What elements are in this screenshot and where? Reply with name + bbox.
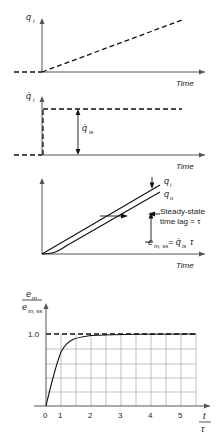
panel1-ylabel: q (26, 12, 31, 22)
panel2-xlabel: Time (176, 162, 194, 171)
panel4-x-arrow (204, 404, 210, 409)
panel3-gap-arrow-head (150, 183, 155, 190)
panel2-level-label: q̇ (82, 123, 87, 133)
panel3-label-qo-sub: o (170, 195, 174, 201)
panel3-err-label-sub: m, ss (154, 243, 168, 249)
panel3-label-qi: q (164, 176, 169, 186)
panel4-grid-vertical (61, 334, 196, 406)
panel1-ramp-line (42, 20, 182, 72)
panel4-y-arrow (44, 303, 49, 309)
panel4-ylabel-denominator: e (22, 302, 27, 312)
textbook-figure: q i Time q̇ i q̇ is Time (0, 0, 223, 439)
panel3-lag-arrow-head (121, 213, 128, 218)
panel3-err-eq-sub: is (182, 243, 186, 249)
panel2-level-arrow-up (76, 109, 81, 115)
panel2-y-arrow (40, 96, 45, 102)
panel4-ylabel-numerator: e (26, 289, 31, 299)
panel4-xtick-0: 0 (43, 411, 48, 420)
panel3-err-label: e (148, 237, 153, 247)
panel1-x-arrow (199, 70, 205, 75)
panel4-ytick-1: 1.0 (28, 330, 40, 339)
panel4-xlabel-numerator: t (203, 411, 206, 421)
figure-svg: q i Time q̇ i q̇ is Time (0, 0, 223, 439)
panel-response: q i q o Steady-state time lag = τ e m, s… (40, 176, 206, 270)
panel2-level-label-sub: is (89, 129, 93, 135)
panel4-xlabel-denominator: τ (201, 424, 205, 434)
panel3-err-eq-tail: τ (190, 237, 194, 247)
panel4-xtick-5: 5 (178, 411, 183, 420)
panel3-label-qi-sub: i (170, 182, 172, 188)
panel4-ylabel-denominator-sub: m, ss (28, 308, 42, 314)
panel2-x-arrow (199, 153, 205, 158)
panel2-ylabel-sub: i (33, 97, 35, 103)
panel3-output-curve-qo (42, 192, 160, 254)
panel3-err-eq: = q̇ (168, 237, 181, 247)
panel1-xlabel: Time (176, 79, 194, 88)
panel1-ylabel-sub: i (33, 18, 35, 24)
panel3-y-arrow (40, 178, 45, 184)
panel-error-ratio: 1.0 0 1 2 3 4 5 e m e m, ss t τ (22, 289, 211, 434)
panel-ramp-input: q i Time (14, 12, 205, 88)
panel1-y-arrow (40, 18, 45, 24)
panel3-lag-annotation-line1: Steady-state (160, 207, 205, 216)
panel3-lag-annotation-line2: time lag = τ (160, 217, 201, 226)
panel3-x-arrow (199, 252, 205, 257)
panel2-ylabel: q̇ (26, 91, 31, 101)
panel4-xtick-2: 2 (88, 411, 93, 420)
panel4-xtick-1: 1 (58, 411, 63, 420)
panel3-xlabel: Time (176, 261, 194, 270)
panel2-level-arrow-down (76, 149, 81, 155)
panel3-label-qo: q (164, 189, 169, 199)
panel4-xtick-3: 3 (118, 411, 123, 420)
panel3-input-ramp-qi (42, 185, 160, 254)
panel-step-rate: q̇ i q̇ is Time (14, 91, 205, 171)
panel4-xtick-4: 4 (148, 411, 153, 420)
